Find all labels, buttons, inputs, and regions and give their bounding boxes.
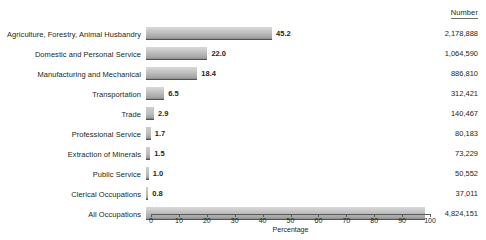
x-axis-tick-label: 60 [314, 217, 322, 224]
bar-value-label: 2.9 [158, 107, 168, 120]
chart-rows: Agriculture, Forestry, Animal Husbandry4… [0, 24, 486, 224]
row-number-value: 50,552 [392, 164, 478, 184]
bar [146, 107, 154, 120]
row-category-label: Public Service [0, 170, 146, 179]
row-category-label: Transportation [0, 90, 146, 99]
row-number-value: 886,810 [392, 64, 478, 84]
bar-value-label: 18.4 [201, 67, 216, 80]
row-category-label: Agriculture, Forestry, Animal Husbandry [0, 30, 146, 39]
table-row: Trade2.9140,467 [0, 104, 486, 124]
bar [146, 167, 149, 180]
bar-value-label: 1.7 [155, 127, 165, 140]
bar [146, 67, 197, 80]
bar-value-label: 1.0 [153, 167, 163, 180]
bar-value-label: 1.5 [154, 147, 164, 160]
row-category-label: Extraction of Minerals [0, 150, 146, 159]
bar-value-label: 6.5 [168, 87, 178, 100]
x-axis-title: Percentage [273, 226, 309, 233]
row-category-label: Clerical Occupations [0, 190, 146, 199]
bar [146, 47, 207, 60]
table-row: Extraction of Minerals1.573,229 [0, 144, 486, 164]
number-column-header: Number [392, 8, 478, 19]
bar [146, 27, 272, 40]
row-category-label: Manufacturing and Mechanical [0, 70, 146, 79]
x-axis-tick-label: 30 [231, 217, 239, 224]
bar-value-label: 45.2 [276, 27, 291, 40]
bar [146, 87, 164, 100]
row-number-value: 80,183 [392, 124, 478, 144]
bar-value-label: 22.0 [211, 47, 226, 60]
table-row: Manufacturing and Mechanical18.4886,810 [0, 64, 486, 84]
table-row: Clerical Occupations0.837,011 [0, 184, 486, 204]
row-number-value: 37,011 [392, 184, 478, 204]
bar [146, 147, 150, 160]
row-number-value: 2,178,888 [392, 24, 478, 44]
table-row: Transportation6.5312,421 [0, 84, 486, 104]
x-axis-tick-label: 10 [175, 217, 183, 224]
bar-chart: Number Agriculture, Forestry, Animal Hus… [0, 0, 486, 240]
bar [146, 127, 151, 140]
row-number-value: 73,229 [392, 144, 478, 164]
row-number-value: 140,467 [392, 104, 478, 124]
x-axis: 0102030405060708090100 Percentage [151, 214, 430, 238]
x-axis-tick-label: 50 [287, 217, 295, 224]
table-row: Agriculture, Forestry, Animal Husbandry4… [0, 24, 486, 44]
table-row: Domestic and Personal Service22.01,064,5… [0, 44, 486, 64]
row-category-label: All Occupations [0, 210, 146, 219]
x-axis-tick-label: 40 [259, 217, 267, 224]
row-category-label: Domestic and Personal Service [0, 50, 146, 59]
table-row: Professional Service1.780,183 [0, 124, 486, 144]
x-axis-tick-label: 80 [370, 217, 378, 224]
row-category-label: Trade [0, 110, 146, 119]
bar-value-label: 0.8 [152, 187, 162, 200]
x-axis-tick-label: 70 [342, 217, 350, 224]
row-category-label: Professional Service [0, 130, 146, 139]
x-axis-tick-label: 0 [149, 217, 153, 224]
x-axis-tick-label: 20 [203, 217, 211, 224]
number-column-header-label: Number [451, 8, 478, 19]
bar [146, 187, 148, 200]
x-axis-tick-label: 90 [398, 217, 406, 224]
table-row: Public Service1.050,552 [0, 164, 486, 184]
row-number-value: 1,064,590 [392, 44, 478, 64]
row-number-value: 312,421 [392, 84, 478, 104]
x-axis-tick-label: 100 [424, 217, 436, 224]
